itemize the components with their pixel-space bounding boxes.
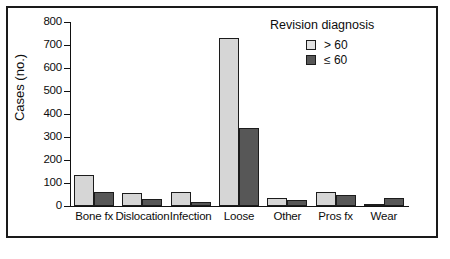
x-label-wear: Wear xyxy=(339,210,429,222)
y-tick-label-300: 300 xyxy=(22,131,62,143)
legend-label-0: > 60 xyxy=(324,39,348,51)
y-tick-label-200: 200 xyxy=(22,154,62,166)
bar-wear-series-1 xyxy=(384,198,404,206)
bar-wear-series-0 xyxy=(364,204,384,206)
chart-legend: Revision diagnosis > 60≤ 60 xyxy=(262,18,412,69)
chart-figure: 0100200300400500600700800 Cases (no.) Bo… xyxy=(0,0,450,259)
y-tick-200 xyxy=(64,160,71,161)
y-tick-label-400: 400 xyxy=(22,108,62,120)
bar-dislocation-series-1 xyxy=(142,199,162,206)
y-tick-label-700: 700 xyxy=(22,39,62,51)
legend-swatch-dark xyxy=(306,55,316,65)
legend-entry-0: > 60 xyxy=(306,39,412,51)
legend-swatch-light xyxy=(306,40,316,50)
bar-other-series-0 xyxy=(267,198,287,206)
y-tick-400 xyxy=(64,114,71,115)
y-tick-500 xyxy=(64,91,71,92)
bar-bone-fx-series-1 xyxy=(94,192,114,206)
bar-dislocation-series-0 xyxy=(122,193,142,206)
y-tick-label-100: 100 xyxy=(22,177,62,189)
y-tick-label-600: 600 xyxy=(22,62,62,74)
bar-infection-series-0 xyxy=(171,192,191,206)
bar-bone-fx-series-0 xyxy=(74,175,94,206)
bar-loose-series-1 xyxy=(239,128,259,206)
y-tick-800 xyxy=(64,22,71,23)
x-axis-line xyxy=(70,206,409,207)
legend-entry-1: ≤ 60 xyxy=(306,54,412,66)
legend-title: Revision diagnosis xyxy=(262,18,412,32)
y-tick-600 xyxy=(64,68,71,69)
bar-pros-fx-series-1 xyxy=(336,195,356,206)
legend-label-1: ≤ 60 xyxy=(324,54,347,66)
bar-pros-fx-series-0 xyxy=(316,192,336,206)
bar-other-series-1 xyxy=(287,200,307,206)
y-tick-700 xyxy=(64,45,71,46)
bar-infection-series-1 xyxy=(191,202,211,206)
y-tick-label-800: 800 xyxy=(22,16,62,28)
legend-entries: > 60≤ 60 xyxy=(262,39,412,66)
bar-loose-series-0 xyxy=(219,38,239,206)
y-tick-0 xyxy=(64,206,71,207)
y-axis-title: Cases (no.) xyxy=(12,28,27,148)
y-tick-100 xyxy=(64,183,71,184)
y-tick-300 xyxy=(64,137,71,138)
y-tick-label-500: 500 xyxy=(22,85,62,97)
